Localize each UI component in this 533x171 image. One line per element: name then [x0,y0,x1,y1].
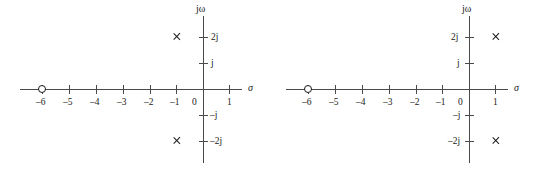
x-tick-minus2-left [150,85,151,94]
y-tick-label-minus2j-right: –2j [448,136,460,146]
x-tick-label-minus3-right: –3 [383,97,393,107]
pole-marker-minus1-plus2j-left [172,32,181,41]
y-tick-plus2j-left [199,37,208,38]
sigma-axis-label-left: σ [248,83,253,93]
x-tick-minus1-left [176,85,177,94]
y-tick-minus2j-right [465,141,474,142]
x-tick-minus5-left [69,85,70,94]
jomega-axis-label-right: jω [462,4,471,14]
y-tick-label-minus2j-left: –2j [210,136,222,146]
y-tick-label-plus2j-right: 2j [451,32,458,42]
x-tick-minus4-left [96,85,97,94]
x-tick-label-minus5-left: –5 [63,97,73,107]
x-tick-plus1-left [229,85,230,94]
x-tick-label-zero-left: 0 [192,97,197,107]
x-tick-label-minus6-left: –6 [36,97,46,107]
x-tick-label-plus1-right: 1 [493,97,498,107]
x-tick-minus4-right [362,85,363,94]
pole-marker-minus1-minus2j-left [172,136,181,145]
y-tick-label-plus2j-left: 2j [211,32,218,42]
x-tick-minus2-right [416,85,417,94]
x-tick-minus3-right [389,85,390,94]
y-tick-plus1j-right [465,63,474,64]
y-tick-label-plus1j-left: j [211,58,214,68]
sigma-axis-line-left [20,89,242,90]
x-tick-minus3-left [123,85,124,94]
x-tick-minus1-right [442,85,443,94]
x-tick-label-minus2-right: –2 [410,97,420,107]
y-tick-label-minus1j-right: –j [453,110,460,120]
x-tick-label-minus3-left: –3 [117,97,127,107]
y-tick-label-plus1j-right: j [457,58,460,68]
pole-zero-plot-left: σ jω –6 –5 –4 –3 –2 –1 0 1 2j j –j –2j [0,0,267,171]
sigma-axis-line-right [286,89,508,90]
y-tick-plus2j-right [465,37,474,38]
x-tick-label-minus6-right: –6 [302,97,312,107]
y-tick-label-minus1j-left: –j [210,110,217,120]
x-tick-label-minus1-left: –1 [170,97,180,107]
pole-zero-plot-right: σ jω –6 –5 –4 –3 –2 –1 0 1 2j j –j –2j [266,0,533,171]
x-tick-label-minus4-left: –4 [90,97,100,107]
x-tick-plus1-right [495,85,496,94]
pole-zero-figure: σ jω –6 –5 –4 –3 –2 –1 0 1 2j j –j –2j [0,0,533,171]
y-tick-minus1j-right [465,115,474,116]
y-tick-minus2j-left [199,141,208,142]
x-tick-label-minus2-left: –2 [144,97,154,107]
x-tick-label-minus4-right: –4 [356,97,366,107]
x-tick-label-zero-right: 0 [458,97,463,107]
y-tick-plus1j-left [199,63,208,64]
x-tick-label-plus1-left: 1 [227,97,232,107]
y-tick-minus1j-left [199,115,208,116]
x-tick-label-minus5-right: –5 [329,97,339,107]
zero-marker-minus6-right [304,85,312,93]
sigma-axis-label-right: σ [514,83,519,93]
zero-marker-minus6-left [38,85,46,93]
pole-marker-plus1-plus2j-right [491,32,500,41]
x-tick-label-minus1-right: –1 [436,97,446,107]
x-tick-minus5-right [335,85,336,94]
jomega-axis-label-left: jω [196,4,205,14]
pole-marker-plus1-minus2j-right [491,136,500,145]
